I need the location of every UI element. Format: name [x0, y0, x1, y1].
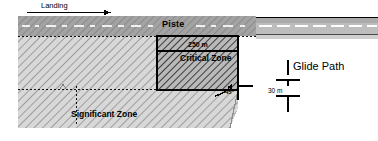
- piste-label: Piste: [162, 20, 185, 29]
- critical-zone-distance-label: 250 m: [188, 41, 208, 48]
- piste-zones-diagram: Landing Piste 250 m Critical Zone Signif…: [0, 0, 378, 141]
- significant-zone-label: Significant Zone: [71, 110, 137, 119]
- slope-angle-label: 45°: [225, 89, 234, 95]
- road-band: [256, 17, 378, 39]
- landing-label: Landing: [41, 2, 68, 10]
- glide-path-label: Glide Path: [293, 61, 344, 72]
- piste-band: [18, 16, 256, 37]
- clearance-height-label: 30 m: [268, 88, 282, 95]
- critical-zone-label: Critical Zone: [180, 54, 231, 63]
- clearance-dimension: [238, 60, 300, 112]
